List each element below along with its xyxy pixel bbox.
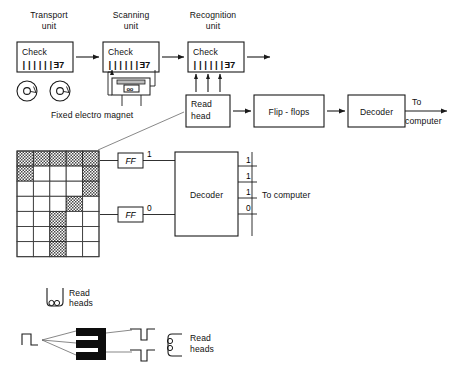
matrix-cell-off — [66, 181, 82, 196]
decoder-output-bit: 0 — [246, 203, 251, 213]
matrix-cell-off — [17, 196, 33, 211]
matrix-cell-off — [83, 227, 99, 242]
matrix-cell-on — [50, 211, 66, 226]
decoder-output-bit: 1 — [246, 155, 251, 165]
read-heads-upper-symbol: Read heads — [47, 288, 93, 308]
flip-flops-label: Flip - flops — [269, 107, 310, 117]
matrix-cell-on — [50, 242, 66, 257]
matrix-cell-off — [66, 242, 82, 257]
matrix-cell-off — [33, 242, 49, 257]
character-dot-matrix — [17, 151, 99, 257]
decoder-output-bit: 1 — [246, 171, 251, 181]
decoder-label-lower: Decoder — [190, 190, 223, 200]
matrix-cell-on — [33, 151, 49, 166]
read-heads-lower-label-line1: Read — [190, 333, 211, 343]
micr-character-glyph — [76, 328, 106, 360]
matrix-cell-on — [66, 196, 82, 211]
decoder-box-lower: Decoder — [175, 152, 238, 236]
flip-flops-box: Flip - flops — [254, 95, 324, 127]
transport-unit-label-line2: unit — [42, 21, 57, 31]
transport-unit-label-line1: Transport — [30, 10, 68, 20]
matrix-cell-on — [50, 151, 66, 166]
read-heads-lower-symbol: Read heads — [167, 333, 214, 356]
matrix-cell-off — [33, 181, 49, 196]
matrix-cell-on — [17, 166, 33, 181]
check-label-scanning: Check — [108, 47, 133, 57]
check-micr-transport: ||||||Ǝ7 — [21, 60, 65, 71]
ff-block-2: FF 0 — [100, 203, 175, 222]
read-heads-upper-label-line1: Read — [69, 288, 90, 298]
matrix-cell-off — [50, 196, 66, 211]
read-head-sense-arrows — [196, 74, 220, 92]
matrix-cell-off — [17, 181, 33, 196]
ff-block-2-bit: 0 — [147, 203, 152, 213]
matrix-cell-off — [33, 227, 49, 242]
read-head-label-line1: Read — [191, 99, 212, 109]
fixed-electro-magnet-caption: Fixed electro magnet — [51, 110, 134, 120]
figure-canvas: Transport unit Scanning unit Recognition… — [0, 0, 454, 383]
matrix-cell-on — [50, 227, 66, 242]
ff-block-1-bit: 1 — [147, 149, 152, 159]
matrix-cell-off — [33, 196, 49, 211]
matrix-cell-off — [17, 211, 33, 226]
magnet-core-glyph: oo — [127, 86, 134, 93]
read-head-box: Read head — [186, 95, 230, 127]
to-computer-label-line1: To — [412, 97, 421, 107]
recognition-unit-label-line2: unit — [206, 21, 221, 31]
matrix-cell-on — [83, 151, 99, 166]
check-label-transport: Check — [22, 47, 47, 57]
check-micr-recognition: ||||||Ǝ7 — [192, 60, 236, 71]
matrix-cell-off — [33, 166, 49, 181]
matrix-cell-off — [83, 211, 99, 226]
matrix-cell-off — [33, 211, 49, 226]
recognition-unit-label-line1: Recognition — [190, 10, 237, 20]
to-computer-label-line2: computer — [405, 116, 442, 126]
matrix-cell-on — [17, 151, 33, 166]
matrix-cell-off — [66, 227, 82, 242]
recognition-unit-caption: Recognition unit — [190, 10, 237, 31]
decoder-output-lines: 1110 — [238, 152, 257, 236]
matrix-cell-on — [83, 181, 99, 196]
matrix-cell-on — [66, 151, 82, 166]
ff-block-1: FF 1 — [100, 149, 175, 168]
read-heads-upper-label-line2: heads — [69, 298, 93, 308]
read-head-label-line2: head — [191, 111, 211, 121]
check-label-recognition: Check — [193, 47, 218, 57]
transport-unit-caption: Transport unit — [30, 10, 68, 31]
matrix-cell-off — [17, 242, 33, 257]
matrix-cell-off — [50, 166, 66, 181]
scanning-unit-caption: Scanning unit — [113, 10, 150, 31]
check-box-scanning: Check ||||||Ǝ7 — [103, 42, 159, 72]
waveform-right-pulse-upper — [130, 329, 155, 340]
decoder-output-bit: 1 — [246, 187, 251, 197]
read-heads-lower-label-line2: heads — [190, 344, 214, 354]
glyph-leader-lines-left — [42, 331, 76, 355]
check-box-recognition: Check ||||||Ǝ7 — [188, 42, 244, 72]
matrix-cell-on — [83, 166, 99, 181]
waveform-left-pulse — [22, 334, 38, 345]
check-box-transport: Check ||||||Ǝ7 — [17, 42, 73, 72]
matrix-cell-off — [66, 166, 82, 181]
ff-block-2-label: FF — [125, 210, 136, 220]
transport-rollers — [17, 81, 70, 101]
matrix-cell-off — [66, 211, 82, 226]
matrix-cell-off — [50, 181, 66, 196]
matrix-cell-off — [83, 242, 99, 257]
scanning-unit-label-line2: unit — [124, 21, 139, 31]
micr-system-diagram: Transport unit Scanning unit Recognition… — [0, 0, 454, 383]
waveform-right-pulse-lower — [130, 350, 155, 361]
matrix-cell-off — [17, 227, 33, 242]
glyph-leader-lines-right — [106, 330, 132, 352]
decoder-label-top: Decoder — [360, 107, 393, 117]
to-computer-label-lower: To computer — [262, 190, 310, 200]
decoder-box-top: Decoder — [348, 95, 405, 127]
check-micr-scanning: ||||||Ǝ7 — [107, 60, 151, 71]
ff-block-1-label: FF — [125, 156, 136, 166]
scanning-unit-label-line1: Scanning — [113, 10, 150, 20]
matrix-cell-off — [83, 196, 99, 211]
